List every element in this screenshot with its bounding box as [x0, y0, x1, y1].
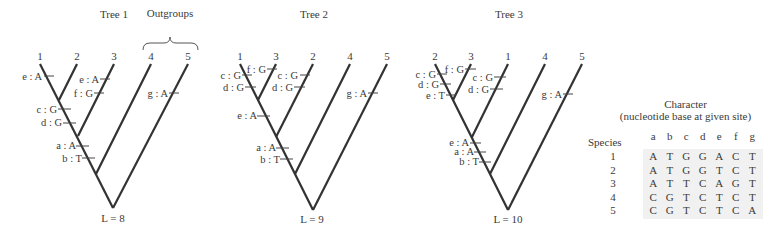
tree-1-branch — [96, 64, 151, 174]
change-label: g : A — [542, 89, 563, 100]
cell: C — [695, 177, 712, 191]
cell: A — [711, 150, 728, 164]
tree-1-length: L = 8 — [101, 212, 125, 224]
tree-3-tip: 2 — [432, 50, 438, 62]
column-header: d — [695, 130, 712, 142]
cell: G — [728, 177, 745, 191]
change-label: e : A — [237, 110, 257, 121]
tree-3-length: L = 10 — [493, 213, 523, 225]
tree-1-tip: 3 — [111, 50, 117, 62]
change-label: f : G — [247, 64, 267, 75]
table-title: Character — [606, 98, 765, 110]
species-id: 5 — [606, 204, 620, 218]
tree-1-tip: 1 — [37, 50, 43, 62]
cell: C — [728, 164, 745, 178]
cell: A — [711, 177, 728, 191]
tree-2-length: L = 9 — [300, 213, 324, 225]
cell: C — [695, 204, 712, 218]
species-header: Species — [588, 136, 622, 148]
table-row: ATTCAGT — [645, 177, 761, 191]
tree-2-tip: 1 — [237, 50, 243, 62]
cell: T — [711, 204, 728, 218]
cell: T — [678, 191, 695, 205]
change-label: d : G — [418, 79, 439, 90]
outgroups-brace — [143, 37, 198, 50]
cell: G — [662, 204, 679, 218]
cell: C — [645, 204, 662, 218]
tree-2-tip: 3 — [273, 50, 279, 62]
tree-1-title: Tree 1 — [100, 8, 128, 20]
tree-3-tip: 1 — [505, 50, 511, 62]
column-headers: a b c d e f g — [645, 130, 761, 142]
cell: A — [744, 204, 761, 218]
column-header: f — [728, 130, 745, 142]
cell: T — [711, 164, 728, 178]
cell: C — [728, 204, 745, 218]
column-header: b — [662, 130, 679, 142]
column-header: a — [645, 130, 662, 142]
tree-1-branch — [113, 64, 188, 208]
cell: G — [678, 150, 695, 164]
table-subtitle: (nucleotide base at given site) — [606, 110, 765, 122]
change-label: b : T — [260, 154, 280, 165]
tree-2-branch — [295, 64, 350, 174]
cell: C — [695, 191, 712, 205]
change-label: c : G — [221, 70, 242, 81]
cell: G — [662, 191, 679, 205]
outgroups-label: Outgroups — [147, 7, 193, 19]
change-label: e : A — [79, 74, 99, 85]
change-label: d : G — [41, 117, 62, 128]
species-ids: 1 2 3 4 5 — [606, 150, 620, 218]
change-label: b : T — [62, 153, 82, 164]
character-table: Character (nucleotide base at given site… — [588, 98, 765, 122]
tree-2-tip: 2 — [310, 50, 316, 62]
tree-1: Tree 1 Outgroups 1 2 3 4 5 e : A e : A f… — [22, 7, 198, 224]
cell: C — [645, 191, 662, 205]
species-id: 2 — [606, 164, 620, 178]
cell: T — [744, 177, 761, 191]
tree-3-branch — [508, 64, 582, 210]
cell: A — [645, 164, 662, 178]
tree-3-tip: 5 — [579, 50, 585, 62]
tree-3-title: Tree 3 — [495, 8, 524, 20]
tree-3-branch — [490, 64, 545, 174]
tree-3: Tree 3 2 3 1 4 5 c : G d : G e : T f : G… — [416, 8, 586, 225]
tree-2-branch — [313, 64, 387, 210]
cell: T — [711, 191, 728, 205]
column-header: g — [744, 130, 761, 142]
cell: A — [645, 177, 662, 191]
change-label: f : G — [74, 88, 94, 99]
change-label: c : G — [473, 72, 494, 83]
change-label: a : A — [56, 140, 76, 151]
cell: C — [728, 150, 745, 164]
cell: G — [695, 164, 712, 178]
change-label: f : G — [445, 64, 465, 75]
table-body: ATGGACT ATGGTCT ATTCAGT CGTCTCT CGTCTCA — [643, 149, 763, 219]
tree-3-tip: 3 — [468, 50, 474, 62]
change-label: e : T — [426, 90, 446, 101]
cell: T — [678, 204, 695, 218]
table-row: CGTCTCT — [645, 191, 761, 205]
cell: T — [678, 177, 695, 191]
change-label: b : T — [459, 156, 479, 167]
change-label: d : G — [272, 82, 293, 93]
cell: T — [662, 150, 679, 164]
cell: T — [662, 164, 679, 178]
change-label: d : G — [223, 82, 244, 93]
column-header: c — [678, 130, 695, 142]
change-label: a : A — [256, 142, 276, 153]
table-row: ATGGACT — [645, 150, 761, 164]
tree-2-tip: 4 — [347, 50, 353, 62]
cell: G — [678, 164, 695, 178]
change-label: g : A — [347, 88, 368, 99]
tree-1-tip: 2 — [74, 50, 80, 62]
cell: T — [744, 191, 761, 205]
cell: T — [744, 150, 761, 164]
change-label: e : A — [22, 71, 42, 82]
change-label: d : G — [468, 84, 489, 95]
cell: G — [695, 150, 712, 164]
change-label: g : A — [148, 88, 169, 99]
table-row: ATGGTCT — [645, 164, 761, 178]
cell: C — [728, 191, 745, 205]
column-header: e — [711, 130, 728, 142]
